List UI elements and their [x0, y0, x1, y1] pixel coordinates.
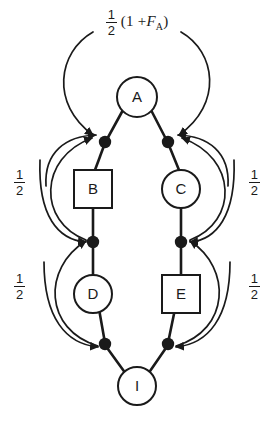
node-c[interactable]: C	[162, 170, 200, 208]
node-c-label: C	[176, 180, 187, 197]
junction-dot-right-lower	[162, 338, 174, 350]
arc-top-left-inbreeding	[64, 32, 93, 135]
edge-a-to-right-junction	[151, 110, 167, 141]
pedigree-graph-svg: A B C D E I	[0, 0, 274, 428]
node-i[interactable]: I	[118, 367, 156, 405]
junction-dot-left-mid	[87, 236, 99, 248]
pedigree-diagram: 1 2 (1 +FA) 1 2 1 2 1 2 1 2	[0, 0, 274, 428]
node-b-label: B	[88, 180, 98, 197]
pedigree-edges	[93, 110, 181, 374]
junction-dot-left-upper	[99, 136, 111, 148]
junction-dot-left-lower	[99, 338, 111, 350]
node-e-label: E	[176, 285, 186, 302]
junction-dot-right-upper	[162, 136, 174, 148]
node-i-label: I	[135, 377, 139, 394]
arc-top-right-inbreeding	[179, 32, 210, 135]
node-d[interactable]: D	[74, 275, 112, 313]
edge-left-lower-junction-to-i	[105, 345, 126, 374]
junction-dot-right-mid	[175, 236, 187, 248]
edge-a-to-left-junction	[106, 110, 123, 141]
node-d-label: D	[88, 285, 99, 302]
node-e[interactable]: E	[162, 275, 200, 313]
node-a[interactable]: A	[117, 77, 157, 117]
node-b[interactable]: B	[74, 170, 112, 208]
node-a-label: A	[132, 88, 142, 105]
